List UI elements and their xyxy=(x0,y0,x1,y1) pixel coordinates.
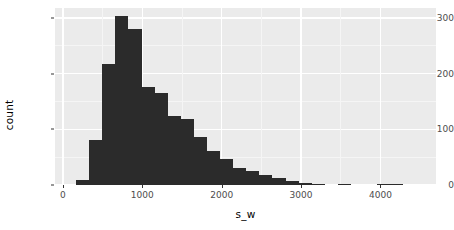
histogram-bar xyxy=(194,137,207,185)
gridline-major-vertical xyxy=(62,8,63,185)
y-tick-mark xyxy=(51,185,54,186)
histogram-bar xyxy=(286,181,299,185)
histogram-bar xyxy=(155,93,168,185)
gridline-major-vertical xyxy=(300,8,301,185)
histogram-bar xyxy=(207,151,220,186)
histogram-bar xyxy=(338,184,351,185)
histogram-bar xyxy=(246,171,259,185)
x-axis-title: s_w xyxy=(55,208,436,220)
x-tick-mark xyxy=(222,185,223,188)
plot-panel xyxy=(55,8,436,185)
gridline-minor-vertical xyxy=(261,8,262,185)
histogram-bar xyxy=(233,168,246,185)
histogram-bar xyxy=(259,175,272,185)
y-tick-mark xyxy=(51,73,54,74)
x-tick-label: 2000 xyxy=(202,190,242,200)
histogram-bar xyxy=(181,119,194,185)
histogram-bar xyxy=(76,180,89,185)
histogram-bar xyxy=(312,184,325,185)
histogram-bar xyxy=(377,184,390,185)
x-tick-mark xyxy=(142,185,143,188)
histogram-bar xyxy=(128,29,141,185)
x-tick-label: 1000 xyxy=(122,190,162,200)
gridline-major-vertical xyxy=(380,8,381,185)
histogram-bar xyxy=(142,87,155,185)
gridline-minor-vertical xyxy=(340,8,341,185)
histogram-plot: count s_w 0100200300 01000200030004000 xyxy=(0,0,454,230)
x-tick-label: 3000 xyxy=(281,190,321,200)
y-tick-mark xyxy=(51,18,54,19)
histogram-bar xyxy=(272,178,285,185)
x-tick-mark xyxy=(301,185,302,188)
y-axis-title: count xyxy=(0,0,17,230)
histogram-bar xyxy=(89,140,102,185)
histogram-bar xyxy=(102,64,115,185)
y-tick-mark xyxy=(51,129,54,130)
histogram-bar xyxy=(115,16,128,185)
histogram-bar xyxy=(299,183,312,185)
histogram-bar xyxy=(220,159,233,185)
x-tick-label: 4000 xyxy=(360,190,400,200)
x-tick-mark xyxy=(63,185,64,188)
x-tick-mark xyxy=(380,185,381,188)
histogram-bar xyxy=(168,116,181,185)
histogram-bar xyxy=(390,184,403,185)
x-tick-label: 0 xyxy=(43,190,83,200)
